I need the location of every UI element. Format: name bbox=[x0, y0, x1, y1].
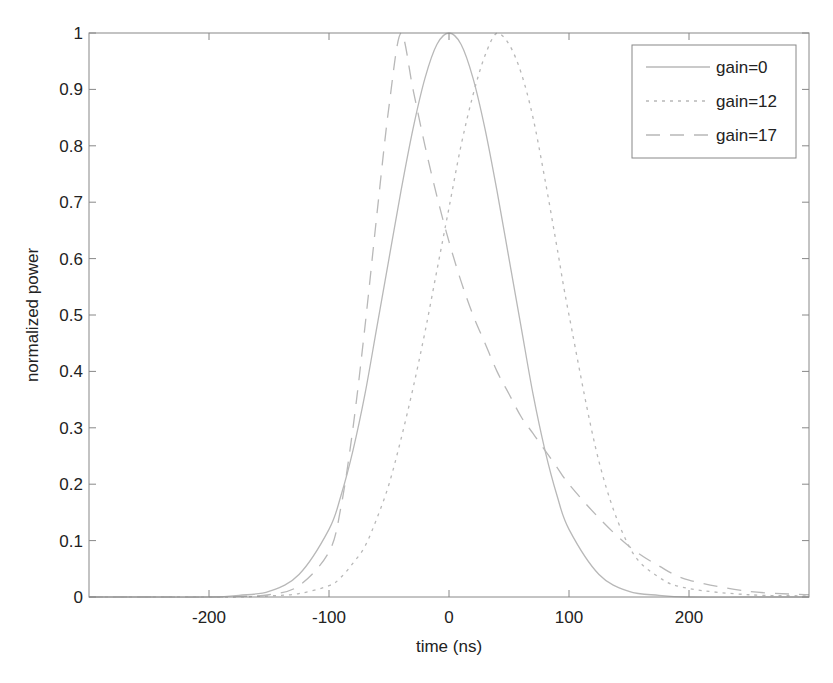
y-axis-label: normalized power bbox=[23, 248, 42, 383]
y-tick-label: 0.4 bbox=[59, 362, 83, 381]
y-tick-label: 0.8 bbox=[59, 137, 83, 156]
x-tick-label: 200 bbox=[675, 608, 703, 627]
y-tick-label: 0.3 bbox=[59, 419, 83, 438]
x-tick-label: 100 bbox=[555, 608, 583, 627]
y-tick-label: 0.6 bbox=[59, 250, 83, 269]
x-tick-label: 0 bbox=[444, 608, 453, 627]
x-tick-label: -100 bbox=[312, 608, 346, 627]
legend-label: gain=17 bbox=[716, 126, 777, 145]
legend: gain=0gain=12gain=17 bbox=[632, 45, 796, 158]
y-tick-label: 0.2 bbox=[59, 475, 83, 494]
y-tick-label: 0.1 bbox=[59, 532, 83, 551]
y-tick-label: 0.7 bbox=[59, 193, 83, 212]
x-tick-label: -200 bbox=[192, 608, 226, 627]
legend-label: gain=0 bbox=[716, 58, 768, 77]
legend-label: gain=12 bbox=[716, 92, 777, 111]
y-tick-label: 0.5 bbox=[59, 306, 83, 325]
y-tick-label: 0.9 bbox=[59, 80, 83, 99]
chart: -200-100010020000.10.20.30.40.50.60.70.8… bbox=[0, 0, 833, 683]
line-chart: -200-100010020000.10.20.30.40.50.60.70.8… bbox=[0, 0, 833, 683]
y-tick-label: 0 bbox=[74, 588, 83, 607]
tick-labels: -200-100010020000.10.20.30.40.50.60.70.8… bbox=[59, 24, 703, 627]
y-tick-label: 1 bbox=[74, 24, 83, 43]
x-axis-label: time (ns) bbox=[416, 637, 482, 656]
